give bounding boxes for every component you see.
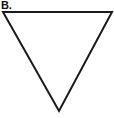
shape-canvas [0,0,114,118]
figure-panel: B. [0,0,114,118]
inverted-triangle-shape [3,12,112,111]
